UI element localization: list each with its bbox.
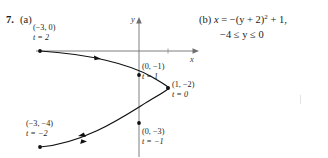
point-coord-t1: (0, −1) [142,62,164,71]
point-t-value-tm1: t = −1 [142,137,164,147]
x-axis-arrowhead [193,48,200,54]
point-dot-t0 [166,86,170,90]
direction-arrow-bottom [80,139,87,144]
point-label-t0: (1, −2) t = 0 [172,80,194,99]
point-dot-t1 [137,73,141,77]
direction-arrow-upper [93,55,101,61]
point-dot-t2 [38,49,42,53]
y-axis-arrowhead [136,17,142,24]
point-t-value-t1: t = 1 [142,72,164,82]
scan-artifact [300,95,301,104]
point-label-tm2: (−3, −4) t = −2 [26,119,53,138]
figure-container: 7. (a) (b) x = −(y + 2)2 + 1, −4 ≤ y ≤ 0 [0,0,328,158]
y-axis-label: y [131,14,135,24]
point-coord-t2: (−3, 0) [33,23,55,32]
point-coord-t0: (1, −2) [172,80,194,89]
point-dot-tm2 [38,145,42,149]
point-coord-tm1: (0, −3) [142,127,164,136]
point-t-value-t2: t = 2 [33,33,55,43]
point-dot-tm1 [137,121,141,125]
point-label-t1: (0, −1) t = 1 [142,62,164,81]
point-t-value-t0: t = 0 [172,90,194,100]
x-axis-label: x [190,54,194,64]
point-coord-tm2: (−3, −4) [26,119,53,128]
point-label-tm1: (0, −3) t = −1 [142,127,164,146]
point-t-value-tm2: t = −2 [26,129,53,139]
point-label-t2: (−3, 0) t = 2 [33,23,55,42]
